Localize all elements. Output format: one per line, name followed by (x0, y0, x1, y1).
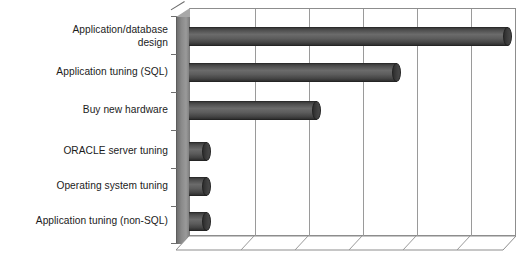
bar-cap (392, 63, 401, 82)
bar-cap (202, 212, 211, 231)
bar-application-tuning-sql (189, 63, 397, 82)
bar-application-database-design (189, 27, 508, 46)
bar-cap (202, 142, 211, 161)
bar-cap (503, 27, 512, 46)
bar-chart: Application/database design Application … (0, 0, 525, 266)
category-label-buy-new-hardware: Buy new hardware (0, 104, 168, 117)
bar-oracle-server-tuning (189, 142, 207, 161)
bar-cap (312, 101, 321, 120)
bar-buy-new-hardware (189, 101, 317, 120)
category-label-application-tuning-sql: Application tuning (SQL) (0, 66, 168, 79)
bar-cap (202, 177, 211, 196)
bars-layer (176, 8, 516, 258)
bar-operating-system-tuning (189, 177, 207, 196)
plot-area (176, 8, 516, 258)
category-label-oracle-server-tuning: ORACLE server tuning (0, 145, 168, 158)
bar-application-tuning-non-sql (189, 212, 207, 231)
category-axis-labels: Application/database design Application … (0, 0, 168, 266)
category-label-application-tuning-non-sql: Application tuning (non-SQL) (0, 215, 168, 228)
category-label-application-database-design: Application/database design (0, 24, 168, 49)
category-label-operating-system-tuning: Operating system tuning (0, 180, 168, 193)
